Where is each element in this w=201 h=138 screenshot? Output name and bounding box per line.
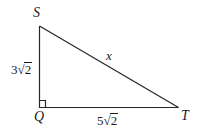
vertex-label-s: S <box>33 6 40 20</box>
right-angle-marker-icon <box>40 101 46 108</box>
vertex-label-t: T <box>181 109 189 123</box>
side-length-label-horizontal-leg: 5√2 <box>97 113 118 127</box>
radicand-value: 2 <box>24 62 32 76</box>
side-length-label-hypotenuse: x <box>106 49 112 62</box>
right-triangle-figure: S Q T 3√2 5√2 x <box>0 0 201 138</box>
side-length-label-vertical-leg: 3√2 <box>11 62 32 76</box>
side-hypotenuse-ST <box>40 26 179 108</box>
vertex-label-q: Q <box>34 110 44 124</box>
radicand-value: 2 <box>110 113 118 127</box>
